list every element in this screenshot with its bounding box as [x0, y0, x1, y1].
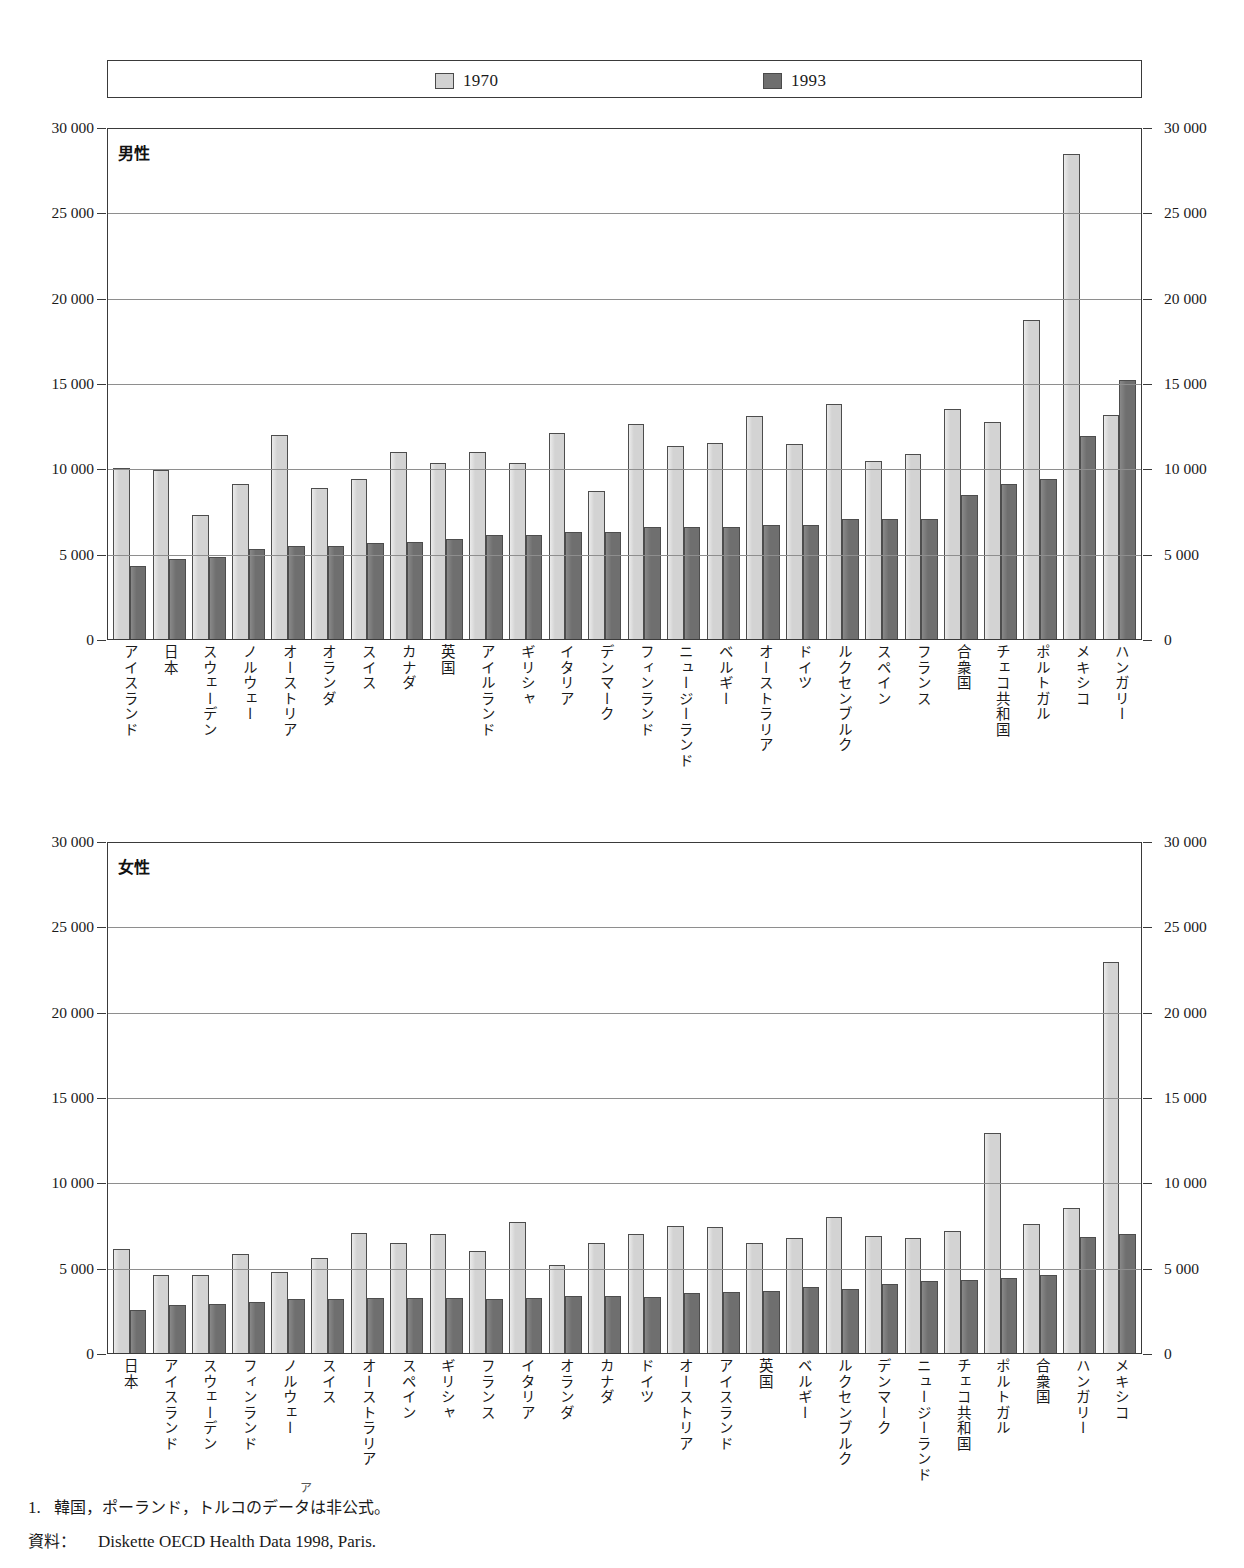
bar-1970: [944, 409, 961, 639]
category-label: メキシコ: [1113, 1358, 1128, 1482]
bar-1993: [921, 1281, 938, 1353]
y-axis-tick-dash-left-10000: [97, 1183, 106, 1184]
category-tick: カナダ: [585, 1358, 625, 1482]
y-axis-tick-right-10000: 10 000: [1164, 461, 1207, 477]
category-tick: アイスランド: [109, 644, 149, 768]
bar-1993: [1040, 479, 1057, 639]
footnotes: 1. 韓国，ポーランド，トルコのデータは非公式。 資料： Diskette OE…: [28, 1494, 1128, 1562]
category-tick: オーストリア: [664, 1358, 704, 1482]
y-axis-tick-dash-right-15000: [1143, 1098, 1152, 1099]
bar-1970: [1023, 320, 1040, 639]
y-axis-tick-dash-left-5000: [97, 555, 106, 556]
bar-1970: [628, 424, 645, 639]
bar-1970: [113, 1249, 130, 1353]
category-label: スウェーデン: [200, 1358, 215, 1482]
bar-1993: [288, 1299, 305, 1353]
y-axis-tick-dash-left-25000: [97, 927, 106, 928]
bar-1970: [469, 452, 486, 639]
bar-1970: [786, 444, 803, 639]
bar-1970: [667, 1226, 684, 1353]
category-label: 英国: [756, 1358, 771, 1482]
category-label: ドイツ: [795, 644, 810, 768]
y-axis-tick-dash-left-0: [97, 640, 106, 641]
category-tick: ノルウェー: [268, 1358, 308, 1482]
category-tick: スイス: [307, 1358, 347, 1482]
category-tick: デンマーク: [585, 644, 625, 768]
category-label: ポルトガル: [1033, 644, 1048, 768]
bar-1970: [1063, 1208, 1080, 1353]
y-axis-tick-left-10000: 10 000: [51, 1175, 94, 1191]
bar-1970: [390, 452, 407, 639]
bar-1993: [288, 546, 305, 639]
category-tick: ニュージーランド: [664, 644, 704, 768]
category-label: 日本: [121, 1358, 136, 1482]
category-label: デンマーク: [875, 1358, 890, 1482]
category-label: ハンガリー: [1113, 644, 1128, 768]
category-label: ニュージーランド: [914, 1358, 929, 1482]
legend-item-1970: 1970: [435, 71, 498, 91]
bar-1993: [763, 1291, 780, 1353]
category-tick: ハンガリー: [1100, 644, 1140, 768]
category-tick: スイス: [347, 644, 387, 768]
category-tick: 合衆国: [942, 644, 982, 768]
bar-1993: [684, 1293, 701, 1353]
category-label: ギリシャ: [518, 644, 533, 768]
y-axis-tick-dash-left-10000: [97, 469, 106, 470]
category-label: フィンランド: [240, 1358, 255, 1482]
bar-1970: [826, 404, 843, 639]
bar-1993: [249, 549, 266, 639]
bar-1970: [588, 1243, 605, 1353]
panel-male: 男性 30 00030 00025 00025 00020 00020 0001…: [0, 110, 1244, 810]
y-axis-tick-left-10000: 10 000: [51, 461, 94, 477]
category-tick: メキシコ: [1061, 644, 1101, 768]
bar-1993: [723, 527, 740, 639]
category-tick: カナダ: [387, 644, 427, 768]
bar-1970: [1063, 154, 1080, 639]
chart-title: [0, 0, 1244, 4]
bar-1993: [526, 535, 543, 639]
bar-1993: [961, 1280, 978, 1353]
y-axis-tick-left-0: 0: [86, 1346, 94, 1362]
category-tick: スウェーデン: [188, 644, 228, 768]
bar-1993: [407, 1298, 424, 1353]
gridline-5000: [108, 1269, 1141, 1270]
gridline-25000: [108, 213, 1141, 214]
category-label: ベルギー: [795, 1358, 810, 1482]
legend-label-1993: 1993: [791, 71, 826, 91]
category-tick: スペイン: [862, 644, 902, 768]
category-tick: 英国: [744, 1358, 784, 1482]
category-tick: オーストラリア: [744, 644, 784, 768]
category-tick: メキシコ: [1100, 1358, 1140, 1482]
category-label: ノルウェー: [240, 644, 255, 768]
bar-1993: [803, 525, 820, 639]
bar-1993: [486, 1299, 503, 1353]
category-tick: ルクセンブルク: [823, 1358, 863, 1482]
bar-1970: [509, 463, 526, 639]
bar-1993: [367, 543, 384, 639]
bar-1993: [644, 527, 661, 639]
bar-1970: [430, 463, 447, 639]
category-tick: ポルトガル: [981, 1358, 1021, 1482]
category-tick: フランス: [902, 644, 942, 768]
y-axis-tick-dash-right-20000: [1143, 1013, 1152, 1014]
category-label: イタリア: [557, 644, 572, 768]
y-axis-tick-left-30000: 30 000: [51, 120, 94, 136]
category-tick: イタリア: [545, 644, 585, 768]
category-label: フランス: [914, 644, 929, 768]
y-axis-tick-left-30000: 30 000: [51, 834, 94, 850]
y-axis-tick-dash-left-0: [97, 1354, 106, 1355]
y-axis-tick-right-5000: 5 000: [1164, 1261, 1199, 1277]
legend-swatch-1993-icon: [763, 73, 782, 89]
bar-1970: [192, 515, 209, 639]
y-axis-tick-left-25000: 25 000: [51, 919, 94, 935]
gridline-15000: [108, 384, 1141, 385]
y-axis-tick-dash-left-15000: [97, 1098, 106, 1099]
category-label: チェコ共和国: [954, 1358, 969, 1482]
bar-1970: [984, 1133, 1001, 1353]
y-axis-tick-right-25000: 25 000: [1164, 205, 1207, 221]
y-axis-tick-dash-left-5000: [97, 1269, 106, 1270]
bar-1993: [130, 1310, 147, 1353]
y-axis-tick-dash-right-25000: [1143, 927, 1152, 928]
bar-1993: [842, 519, 859, 639]
category-tick: アイスランド: [704, 1358, 744, 1482]
